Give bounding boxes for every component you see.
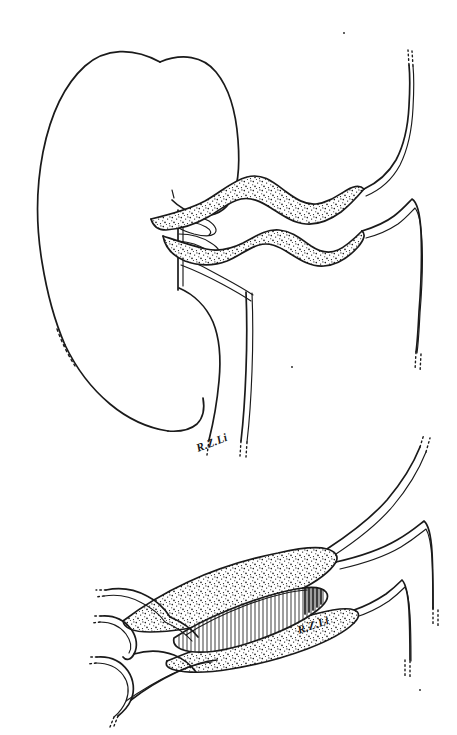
great-vessel-superior (364, 50, 414, 196)
branch-vessel-3 (88, 657, 133, 727)
medical-illustration-svg: R.Z.Li (0, 0, 457, 735)
lower-panel: R.Z.Li (88, 434, 438, 727)
ink-speck (291, 366, 293, 368)
ink-speck (419, 689, 421, 691)
great-vessel-inferior (362, 199, 422, 372)
ureter-and-pelvis (179, 288, 253, 457)
signature-upper-text: R.Z.Li (193, 431, 229, 454)
ink-speck (343, 32, 345, 34)
illustration-canvas: R.Z.Li (0, 0, 457, 735)
tortuous-renal-vessel-upper (151, 176, 364, 230)
upper-panel: R.Z.Li (38, 32, 423, 457)
signature-upper: R.Z.Li (193, 431, 229, 454)
descending-vessel-left (354, 580, 411, 679)
